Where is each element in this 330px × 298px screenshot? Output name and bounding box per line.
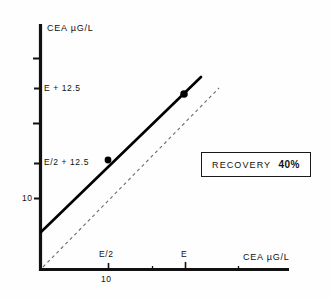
y-axis-title: CEA µG/L (47, 24, 94, 33)
y-tick-label-decade-10: 10 (22, 194, 33, 203)
recovery-label: RECOVERY (212, 160, 271, 170)
recovery-unit: % (291, 159, 300, 170)
recovery-regression-line (41, 77, 201, 232)
x-tick-label-e-full: E (181, 250, 187, 259)
data-point-marker-e-full (180, 90, 188, 98)
recovery-chart-figure: CEA µG/L CEA µG/L E + 12.5 E/2 + 12.5 10… (0, 0, 330, 298)
x-axis-title: CEA µG/L (243, 253, 290, 262)
y-tick-label-e-plus-125: E + 12.5 (44, 84, 81, 93)
y-tick-label-e-half-plus-125: E/2 + 12.5 (44, 158, 89, 167)
x-tick-label-decade-10: 10 (101, 275, 112, 284)
data-point-marker-e-half (105, 157, 112, 164)
recovery-annotation-box: RECOVERY 40% (201, 152, 311, 177)
recovery-annotation-text: RECOVERY 40% (212, 160, 300, 170)
x-tick-label-e-half: E/2 (99, 250, 114, 259)
recovery-value: 40 (278, 159, 290, 170)
identity-reference-line (43, 88, 219, 267)
